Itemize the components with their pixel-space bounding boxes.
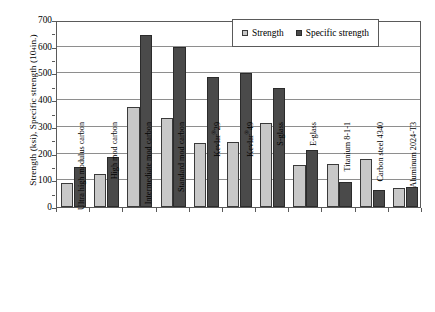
legend-swatch-specific [296,30,302,36]
y-tick-mark-minor [52,195,55,196]
bar-strength [61,183,73,207]
x-axis-label: E-glass [309,122,331,214]
x-axis-label: Standard mod carbon [177,122,199,214]
x-axis-label: High mod carbon [110,122,132,214]
x-axis-label: Titanium 8-1-1 [343,122,365,214]
legend-item: Strength [242,28,284,38]
bar-chart-figure: Strength (ksi), Specific strength (104 i… [0,0,435,312]
y-tick-label: 400 [22,96,52,105]
x-tick-mark [56,208,57,212]
y-tick-label: 100 [22,176,52,185]
y-tick-label: 700 [22,16,52,25]
y-tick-label: 200 [22,150,52,159]
y-tick-label: 500 [22,69,52,78]
x-axis-label: Intermediate mod carbon [144,122,166,214]
y-tick-label: 0 [22,203,52,212]
x-axis-label: Aluminum 2024-T3 [409,122,431,214]
x-axis-label: Kevlar®29 [210,122,232,214]
x-axis-label: Carbon steel 4340 [376,122,398,214]
y-tick-mark-minor [52,168,55,169]
x-axis-label: S-glass [276,122,298,214]
legend-item: Specific strength [296,28,369,38]
legend-swatch-strength [242,30,248,36]
x-axis-label: Ultra high modulus carbon [77,122,99,214]
legend-label: Strength [252,28,284,38]
y-tick-mark-minor [52,34,55,35]
y-tick-mark-minor [52,115,55,116]
y-tick-mark-minor [52,88,55,89]
legend-label: Specific strength [306,28,369,38]
y-tick-mark-minor [52,141,55,142]
y-tick-mark-minor [52,61,55,62]
gridline [57,72,420,73]
x-axis-label: Kevlar®49 [243,122,265,214]
gridline [57,99,420,100]
y-tick-label: 300 [22,123,52,132]
y-tick-label: 600 [22,43,52,52]
chart-legend: StrengthSpecific strength [232,19,379,47]
